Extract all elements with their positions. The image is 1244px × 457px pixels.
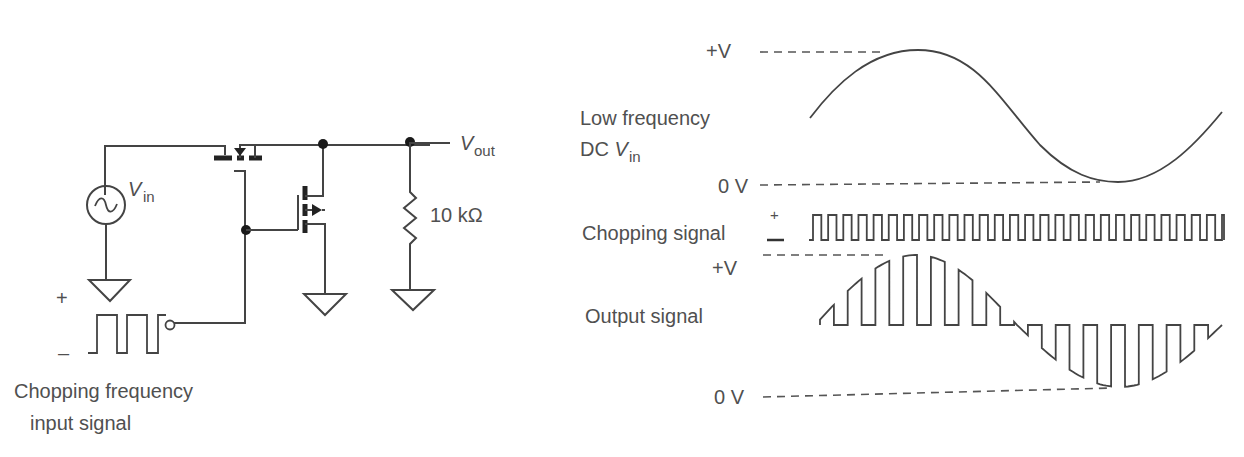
top-zero-v-label: 0 V [718,175,749,197]
lowfreq-label-line2: DC V [580,138,629,160]
waveform-panel: +V Low frequency DC V in 0 V Chopping si… [580,40,1224,408]
chopping-square-wave [809,215,1224,240]
shunt-mosfet-icon [298,145,325,294]
chopping-signal-label: Chopping signal [582,222,725,244]
vout-subscript: out [474,142,496,159]
circuit-schematic: V out 10 kΩ V in + – Chopping frequency … [14,132,496,434]
lowfreq-label-line1: Low frequency [580,107,710,129]
junction-node [318,139,328,149]
gate-drive-wire [172,230,245,323]
output-zero-v-label: 0 V [714,386,745,408]
resistor-value: 10 kΩ [430,204,483,226]
vin-top-wire [105,146,225,195]
resistor-icon [404,142,416,290]
ground-icon [89,280,130,301]
inverter-bubble-icon [166,321,175,330]
input-minus-label: – [58,342,70,364]
chopping-plus-label: + [770,206,779,223]
vin-sine-wave [810,50,1222,182]
square-wave-source-icon [88,315,166,353]
chopping-input-caption-line2: input signal [30,412,131,434]
output-plus-v-label: +V [712,257,738,279]
output-signal-label: Output signal [585,305,703,327]
vin-label: V [128,178,143,200]
chopper-diagram: V out 10 kΩ V in + – Chopping frequency … [0,0,1244,457]
vout-label: V [460,132,475,154]
input-plus-label: + [56,287,68,309]
ground-icon [304,294,346,315]
vin-subscript: in [143,188,155,205]
ground-icon [392,290,434,310]
chopped-output-wave [820,255,1222,387]
chopping-input-caption-line1: Chopping frequency [14,380,193,402]
top-plus-v-label: +V [706,40,732,62]
lowfreq-label-subscript: in [629,148,641,165]
